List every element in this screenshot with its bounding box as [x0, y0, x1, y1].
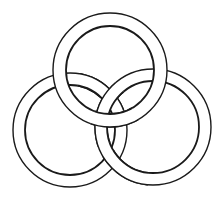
rings-figure: [0, 0, 224, 204]
borromean-rings-drawing: [0, 0, 224, 204]
